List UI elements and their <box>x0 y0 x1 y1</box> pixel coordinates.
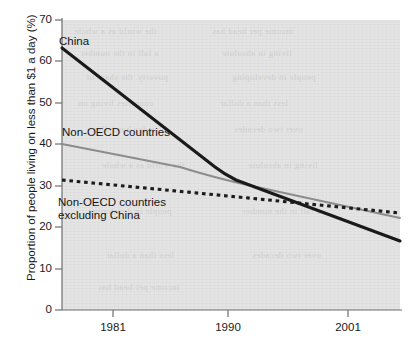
x-axis-ticks <box>113 310 348 317</box>
x-tick-label: 1990 <box>198 321 258 333</box>
series-label-china: China <box>59 35 89 48</box>
y-tick-label: 0 <box>18 303 52 315</box>
y-axis-title: Proportion of people living on less than… <box>25 31 37 281</box>
y-axis-ticks <box>55 20 62 310</box>
series-label-non-oecd-countries: Non-OECD countries <box>62 126 170 139</box>
x-tick-label: 1981 <box>83 321 143 333</box>
series-label-non-oecd-excluding-china-line1: Non-OECD countries <box>58 196 166 209</box>
series-label-non-oecd-excluding-china-line2: excluding China <box>58 209 140 222</box>
x-tick-label: 2001 <box>318 321 378 333</box>
chart-svg <box>0 0 417 344</box>
chart-figure: the world as a whole income per head has… <box>0 0 417 344</box>
